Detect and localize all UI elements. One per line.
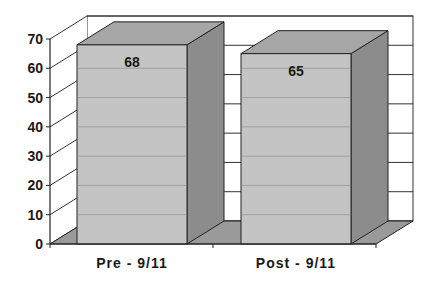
y-tick-label: 0 — [35, 236, 43, 252]
x-tick-label: Pre - 9/11 — [96, 255, 168, 271]
y-tick-label: 20 — [27, 177, 43, 193]
y-tick-label: 40 — [27, 119, 43, 135]
bar-side — [187, 22, 224, 244]
bar-pre-911: 68 — [77, 22, 224, 244]
data-label: 68 — [124, 54, 140, 70]
bar-chart: 6865 010203040506070 Pre - 9/11Post - 9/… — [0, 0, 435, 284]
data-label: 65 — [288, 63, 304, 79]
y-tick-label: 50 — [27, 90, 43, 106]
y-tick-label: 70 — [27, 31, 43, 47]
bar-side — [351, 31, 388, 244]
y-tick-label: 10 — [27, 207, 43, 223]
y-tick-label: 60 — [27, 60, 43, 76]
x-axis: Pre - 9/11Post - 9/11 — [50, 244, 376, 271]
bar-front — [241, 54, 351, 244]
bar-post-911: 65 — [241, 31, 388, 244]
bar-front — [77, 45, 187, 244]
y-axis: 010203040506070 — [27, 31, 50, 252]
y-tick-label: 30 — [27, 148, 43, 164]
x-tick-label: Post - 9/11 — [256, 255, 336, 271]
